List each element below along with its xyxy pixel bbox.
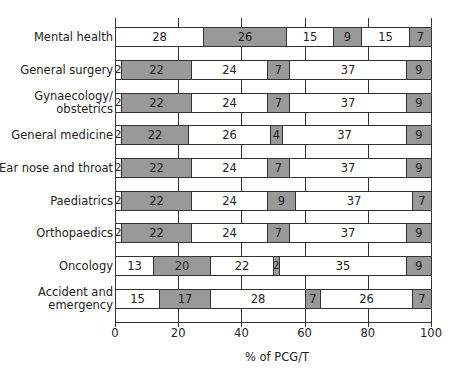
bar-segment: 9 <box>333 27 362 47</box>
bar-segment: 7 <box>267 60 290 80</box>
category-label: Ear nose and throat <box>0 162 113 175</box>
bar-segment: 22 <box>121 93 192 113</box>
bar-segment: 22 <box>121 125 189 145</box>
bar-segment: 24 <box>191 191 268 211</box>
bar-row: 222264379 <box>115 125 431 145</box>
bar-row: 222247379 <box>115 223 431 243</box>
bar-row: 222247379 <box>115 158 431 178</box>
bar-segment: 9 <box>406 256 432 276</box>
bar-segment: 9 <box>406 158 432 178</box>
category-label: General medicine <box>11 129 113 142</box>
bar-segment: 13 <box>115 256 154 276</box>
stacked-bar-chart: Mental healthGeneral surgeryGynaecology/… <box>0 0 457 370</box>
bar-segment: 35 <box>279 256 407 276</box>
bar-segment: 7 <box>267 93 290 113</box>
category-label: Orthopaedics <box>36 227 113 240</box>
category-label: General surgery <box>20 64 113 77</box>
category-label: Oncology <box>59 260 113 273</box>
bar-segment: 22 <box>121 60 192 80</box>
bar-segment: 26 <box>320 289 413 309</box>
bar-segment: 15 <box>361 27 410 47</box>
x-tick-label: 60 <box>285 326 325 340</box>
x-tick-label: 80 <box>348 326 388 340</box>
category-label: Accident andemergency <box>38 286 113 312</box>
bar-row: 1320222359 <box>115 256 431 276</box>
bar-segment: 37 <box>295 191 413 211</box>
bar-segment: 7 <box>412 289 432 309</box>
bar-segment: 7 <box>267 158 290 178</box>
bar-segment: 37 <box>289 93 407 113</box>
bar-row: 1517287267 <box>115 289 431 309</box>
bar-row: 222249377 <box>115 191 431 211</box>
category-label: Gynaecology/obstetrics <box>34 90 113 116</box>
bar-segment: 26 <box>188 125 271 145</box>
bar-segment: 20 <box>153 256 211 276</box>
bar-segment: 37 <box>282 125 407 145</box>
bar-segment: 37 <box>289 223 407 243</box>
bar-segment: 17 <box>159 289 211 309</box>
x-tick-label: 40 <box>221 326 261 340</box>
x-axis-line <box>115 322 432 323</box>
bar-segment: 24 <box>191 223 268 243</box>
bar-segment: 9 <box>406 93 432 113</box>
bar-segment: 22 <box>121 158 192 178</box>
bar-segment: 22 <box>210 256 274 276</box>
bar-segment: 15 <box>286 27 334 47</box>
bar-segment: 37 <box>289 158 407 178</box>
x-tick-label: 20 <box>158 326 198 340</box>
plot-area: 2826159157222247379222247379222264379222… <box>115 18 431 322</box>
bar-segment: 9 <box>406 60 432 80</box>
bar-segment: 28 <box>115 27 204 47</box>
bar-segment: 22 <box>121 223 192 243</box>
bar-row: 222247379 <box>115 60 431 80</box>
bar-segment: 26 <box>203 27 287 47</box>
bar-segment: 24 <box>191 60 268 80</box>
bar-segment: 28 <box>210 289 306 309</box>
bar-segment: 9 <box>406 223 432 243</box>
bar-segment: 9 <box>267 191 296 211</box>
bar-segment: 7 <box>409 27 432 47</box>
bar-segment: 22 <box>121 191 192 211</box>
bar-row: 222247379 <box>115 93 431 113</box>
bar-row: 2826159157 <box>115 27 431 47</box>
bar-segment: 7 <box>412 191 432 211</box>
category-label: Paediatrics <box>50 195 113 208</box>
bar-segment: 7 <box>305 289 321 309</box>
category-label: Mental health <box>34 31 113 44</box>
bar-segment: 15 <box>115 289 160 309</box>
bar-segment: 37 <box>289 60 407 80</box>
bar-segment: 7 <box>267 223 290 243</box>
x-axis-label: % of PCG/T <box>245 350 309 364</box>
bar-segment: 24 <box>191 93 268 113</box>
x-tick-label: 0 <box>95 326 135 340</box>
bar-segment: 24 <box>191 158 268 178</box>
bar-segment: 9 <box>406 125 432 145</box>
x-tick-label: 100 <box>411 326 451 340</box>
